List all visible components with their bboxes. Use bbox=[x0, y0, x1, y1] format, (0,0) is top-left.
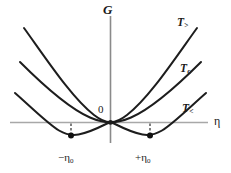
plot-canvas bbox=[0, 0, 231, 173]
marker-minimum-positive-eta0 bbox=[147, 132, 153, 138]
curve-label-t-less: T< bbox=[182, 103, 193, 115]
marker-minimum-negative-eta0 bbox=[68, 132, 74, 138]
origin-convergence-point bbox=[108, 120, 113, 125]
tick-label-negative-eta0-subscript: 0 bbox=[70, 157, 74, 165]
tick-label-positive-eta0: +η0 bbox=[135, 152, 150, 163]
curve-label-t-critical-subscript: c bbox=[187, 67, 190, 76]
curve-label-t-critical-base: T bbox=[180, 62, 187, 74]
curve-label-t-greater-base: T bbox=[177, 16, 184, 28]
tick-label-negative-eta0: −η0 bbox=[58, 152, 73, 163]
curve-label-t-critical: Tc bbox=[180, 63, 190, 75]
curve-label-t-less-base: T bbox=[182, 102, 189, 114]
x-axis-label: η bbox=[214, 115, 220, 127]
curve-label-t-greater: T> bbox=[177, 17, 188, 29]
landau-free-energy-figure: G η 0 T> Tc T< −η0 +η0 bbox=[0, 0, 231, 173]
tick-label-negative-eta0-base: −η bbox=[58, 151, 70, 163]
y-axis-label: G bbox=[103, 3, 112, 16]
curve-label-t-less-subscript: < bbox=[189, 107, 193, 116]
tick-label-positive-eta0-subscript: 0 bbox=[147, 157, 151, 165]
origin-label: 0 bbox=[98, 104, 104, 115]
curve-label-t-greater-subscript: > bbox=[184, 21, 188, 30]
tick-label-positive-eta0-base: +η bbox=[135, 151, 147, 163]
